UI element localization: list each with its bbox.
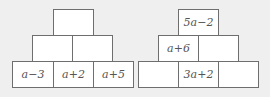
right-middle-cell-2 xyxy=(198,35,239,62)
cell-text: a+6 xyxy=(167,42,190,55)
cell-text: 3a+2 xyxy=(184,68,214,81)
right-bottom-cell-1 xyxy=(138,61,179,88)
cell-text: 5a−2 xyxy=(184,16,214,29)
right-top-cell: 5a−2 xyxy=(178,9,219,36)
right-middle-cell-1: a+6 xyxy=(158,35,199,62)
right-pyramid: 5a−2 a+6 3a+2 xyxy=(0,0,270,97)
right-bottom-cell-3 xyxy=(218,61,259,88)
right-bottom-cell-2: 3a+2 xyxy=(178,61,219,88)
